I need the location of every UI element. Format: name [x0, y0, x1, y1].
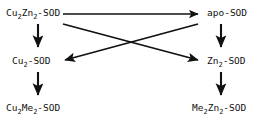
node-cu2-sod-main1: Cu — [12, 55, 23, 66]
node-cu2-sod-sub1: 2 — [23, 61, 27, 69]
node-zn2-sod-main1: Zn — [207, 55, 218, 66]
node-cu2me2-sod-sub1: 2 — [17, 108, 21, 116]
node-cu2zn2-sod-main2: Zn — [22, 7, 33, 18]
node-me2zn2-sod-main1: Me — [192, 102, 203, 113]
node-cu2me2-sod-main2: Me — [22, 102, 33, 113]
node-me2zn2-sod-tail: -SOD — [223, 102, 246, 113]
node-cu2me2-sod-tail: -SOD — [37, 102, 60, 113]
reaction-scheme-diagram: Cu2Zn2-SOD apo-SOD Cu2-SOD Zn2-SOD Cu2Me… — [0, 0, 265, 123]
node-me2zn2-sod-main2: Zn — [208, 102, 219, 113]
node-cu2zn2-sod: Cu2Zn2-SOD — [6, 8, 60, 18]
node-me2zn2-sod-sub1: 2 — [203, 108, 207, 116]
node-me2zn2-sod: Me2Zn2-SOD — [192, 103, 246, 113]
node-cu2me2-sod-main1: Cu — [6, 102, 17, 113]
node-me2zn2-sod-sub2: 2 — [219, 108, 223, 116]
node-cu2-sod: Cu2-SOD — [12, 56, 51, 66]
node-cu2zn2-sod-sub2: 2 — [33, 13, 37, 21]
node-cu2zn2-sod-main1: Cu — [6, 7, 17, 18]
node-cu2zn2-sod-tail: -SOD — [37, 7, 60, 18]
node-zn2-sod: Zn2-SOD — [207, 56, 246, 66]
node-cu2-sod-tail: -SOD — [28, 55, 51, 66]
node-cu2me2-sod-sub2: 2 — [33, 108, 37, 116]
node-apo-sod-text: apo-SOD — [207, 7, 247, 18]
node-cu2me2-sod: Cu2Me2-SOD — [6, 103, 60, 113]
node-zn2-sod-sub1: 2 — [218, 61, 222, 69]
node-zn2-sod-tail: -SOD — [223, 55, 246, 66]
node-apo-sod: apo-SOD — [207, 8, 247, 18]
node-cu2zn2-sod-sub1: 2 — [17, 13, 21, 21]
